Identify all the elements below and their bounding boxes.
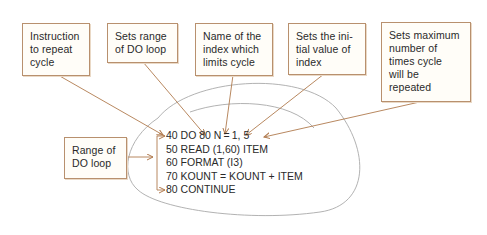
annotation-range: Sets range of DO loop bbox=[107, 23, 178, 63]
label-line: Name of the bbox=[203, 30, 265, 43]
label-line: will be bbox=[389, 68, 463, 81]
range-bracket bbox=[157, 136, 165, 190]
code-line-70: 70 KOUNT = KOUNT + ITEM bbox=[166, 170, 303, 184]
annotation-index-name: Name of the index which limits cycle bbox=[195, 23, 273, 76]
code-line-60: 60 FORMAT (I3) bbox=[166, 156, 303, 170]
code-line-80: 80 CONTINUE bbox=[166, 183, 303, 197]
inner-arc bbox=[190, 104, 314, 128]
label-line: cycle bbox=[30, 56, 82, 69]
arrow-instruction bbox=[58, 75, 163, 135]
annotation-initial: Sets the ini- tial value of index bbox=[288, 23, 366, 75]
annotation-instruction: Instruction to repeat cycle bbox=[22, 23, 90, 76]
label-line: times cycle bbox=[389, 55, 463, 68]
label-line: Sets the ini- bbox=[296, 30, 358, 43]
label-line: tial value of bbox=[296, 43, 358, 56]
label-line: Range of bbox=[72, 144, 119, 157]
label-line: number of bbox=[389, 42, 463, 55]
label-line: repeated bbox=[389, 81, 463, 94]
label-line: Instruction bbox=[30, 30, 82, 43]
code-line-40: 40 DO 80 N = 1, 5 bbox=[166, 129, 303, 143]
label-line: DO loop bbox=[72, 157, 119, 170]
label-line: limits cycle bbox=[203, 56, 265, 69]
label-line: of DO loop bbox=[115, 43, 170, 56]
label-line: index which bbox=[203, 43, 265, 56]
label-line: index bbox=[296, 56, 358, 69]
fortran-code-block: 40 DO 80 N = 1, 5 50 READ (1,60) ITEM 60… bbox=[166, 129, 303, 197]
label-line: Sets range bbox=[115, 30, 170, 43]
code-line-50: 50 READ (1,60) ITEM bbox=[166, 143, 303, 157]
annotation-maximum: Sets maximum number of times cycle will … bbox=[381, 22, 471, 102]
annotation-loop-range: Range of DO loop bbox=[64, 137, 127, 179]
label-line: to repeat bbox=[30, 43, 82, 56]
label-line: Sets maximum bbox=[389, 29, 463, 42]
